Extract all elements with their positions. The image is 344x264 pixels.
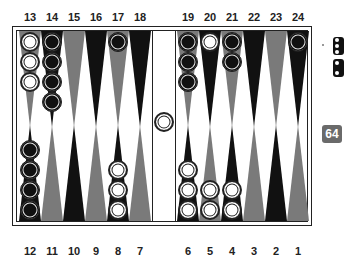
black-checker[interactable] (222, 52, 242, 72)
white-checker[interactable] (222, 180, 242, 200)
point-label-6: 6 (177, 245, 199, 257)
point-label-10: 10 (63, 245, 85, 257)
white-checker[interactable] (178, 200, 198, 220)
black-checker[interactable] (178, 32, 198, 52)
point-label-1: 1 (287, 245, 309, 257)
point-11[interactable] (41, 125, 63, 221)
point-7[interactable] (129, 125, 151, 221)
black-checker[interactable] (42, 92, 62, 112)
point-18[interactable] (129, 31, 151, 127)
bar-right-edge (175, 30, 176, 222)
black-checker[interactable] (20, 200, 40, 220)
black-checker[interactable] (178, 52, 198, 72)
point-label-24: 24 (287, 11, 309, 23)
die-pip (335, 61, 339, 65)
point-label-3: 3 (243, 245, 265, 257)
point-label-17: 17 (107, 11, 129, 23)
point-label-19: 19 (177, 11, 199, 23)
point-label-2: 2 (265, 245, 287, 257)
point-16[interactable] (85, 31, 107, 127)
die-pip (335, 38, 339, 42)
white-checker[interactable] (222, 200, 242, 220)
point-label-21: 21 (221, 11, 243, 23)
point-label-22: 22 (243, 11, 265, 23)
point-label-15: 15 (63, 11, 85, 23)
die-2[interactable] (333, 59, 344, 77)
doubling-cube[interactable]: 64 (322, 125, 342, 143)
die-1[interactable] (333, 37, 344, 55)
point-label-23: 23 (265, 11, 287, 23)
point-label-13: 13 (19, 11, 41, 23)
point-label-4: 4 (221, 245, 243, 257)
white-checker[interactable] (200, 180, 220, 200)
point-label-12: 12 (19, 245, 41, 257)
white-checker[interactable] (178, 160, 198, 180)
white-checker[interactable] (108, 200, 128, 220)
point-15[interactable] (63, 31, 85, 127)
die-pip (335, 50, 339, 54)
point-label-9: 9 (85, 245, 107, 257)
white-checker[interactable] (108, 180, 128, 200)
black-checker[interactable] (20, 160, 40, 180)
point-2[interactable] (265, 125, 287, 221)
die-pip (335, 44, 339, 48)
point-9[interactable] (85, 125, 107, 221)
black-checker[interactable] (20, 140, 40, 160)
black-checker[interactable] (288, 32, 308, 52)
point-label-11: 11 (41, 245, 63, 257)
white-checker[interactable] (20, 32, 40, 52)
white-checker[interactable] (200, 200, 220, 220)
point-1[interactable] (287, 125, 309, 221)
point-label-20: 20 (199, 11, 221, 23)
black-checker[interactable] (42, 52, 62, 72)
black-checker[interactable] (178, 72, 198, 92)
point-23[interactable] (265, 31, 287, 127)
point-22[interactable] (243, 31, 265, 127)
black-checker[interactable] (222, 32, 242, 52)
speck (322, 44, 324, 46)
black-checker[interactable] (42, 72, 62, 92)
black-checker[interactable] (42, 32, 62, 52)
white-checker[interactable] (20, 52, 40, 72)
point-label-8: 8 (107, 245, 129, 257)
point-10[interactable] (63, 125, 85, 221)
point-label-14: 14 (41, 11, 63, 23)
point-label-18: 18 (129, 11, 151, 23)
white-checker[interactable] (178, 180, 198, 200)
point-label-5: 5 (199, 245, 221, 257)
black-checker[interactable] (108, 32, 128, 52)
white-checker[interactable] (108, 160, 128, 180)
black-checker[interactable] (20, 180, 40, 200)
white-checker-on-bar[interactable] (154, 112, 174, 132)
die-pip (335, 71, 339, 75)
white-checker[interactable] (200, 32, 220, 52)
white-checker[interactable] (20, 72, 40, 92)
point-label-7: 7 (129, 245, 151, 257)
point-label-16: 16 (85, 11, 107, 23)
point-3[interactable] (243, 125, 265, 221)
